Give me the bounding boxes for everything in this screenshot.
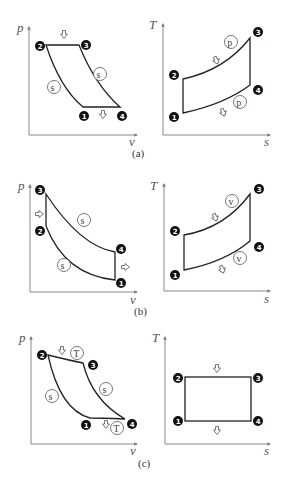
state-point-4: 4: [127, 419, 137, 429]
state-point-3: 3: [81, 40, 91, 50]
state-point-1: 1: [79, 111, 89, 121]
state-point-3: 3: [254, 184, 264, 194]
state-point-2: 2: [35, 226, 45, 236]
state-point-1: 1: [173, 416, 183, 426]
svg-text:v: v: [229, 196, 234, 207]
svg-text:p: p: [227, 37, 232, 48]
caption-c: (c): [138, 457, 151, 470]
svg-text:2: 2: [38, 228, 43, 236]
svg-text:4: 4: [120, 113, 125, 121]
ts-diagram-b: T s v v 3 2 4 1: [150, 178, 270, 306]
process-label-s: s: [58, 259, 71, 272]
process-label-s: s: [78, 214, 91, 227]
process-label-s: s: [46, 390, 59, 403]
svg-text:p: p: [236, 97, 241, 108]
heat-in-icon: [214, 365, 221, 373]
svg-text:3: 3: [257, 186, 262, 194]
y-axis-label: p: [17, 178, 25, 193]
state-point-4: 4: [116, 244, 126, 254]
svg-text:1: 1: [173, 272, 178, 280]
heat-in-icon: [36, 211, 44, 218]
svg-text:4: 4: [256, 87, 261, 95]
state-point-3: 3: [253, 27, 263, 37]
caption-b: (b): [134, 305, 147, 318]
x-axis-label: s: [264, 291, 269, 306]
svg-text:3: 3: [38, 187, 43, 195]
heat-out-icon: [219, 108, 228, 118]
heat-out-icon: [218, 265, 227, 275]
svg-text:1: 1: [119, 280, 124, 288]
heat-out-icon: [214, 427, 221, 435]
state-point-4: 4: [254, 242, 264, 252]
svg-text:s: s: [81, 215, 85, 226]
ts-diagram-c: T s 2 3 1 4: [152, 330, 270, 458]
ts-diagram-a: T s p p 3 2 4 1: [149, 17, 270, 149]
y-axis-label: p: [16, 20, 24, 35]
x-axis-label: v: [130, 443, 136, 458]
y-axis-label: T: [149, 17, 157, 32]
cycle-path: [46, 194, 115, 280]
svg-text:s: s: [51, 82, 55, 93]
cycle-path: [46, 45, 120, 107]
y-axis-label: T: [150, 178, 158, 193]
state-point-2: 2: [35, 41, 45, 51]
cycle-path: [185, 377, 251, 421]
panel-c: p v T s s T 2 3 1 4: [18, 330, 270, 470]
process-label-T: T: [111, 422, 124, 435]
heat-in-icon: [211, 213, 220, 223]
svg-text:2: 2: [173, 228, 178, 236]
cycle-path: [48, 355, 125, 419]
process-label-p: p: [234, 96, 247, 109]
state-point-2: 2: [169, 70, 179, 80]
process-label-T: T: [71, 347, 84, 360]
svg-text:4: 4: [257, 244, 262, 252]
svg-text:2: 2: [40, 352, 45, 360]
x-axis-label: s: [264, 134, 269, 149]
process-label-s: s: [48, 81, 61, 94]
panel-a: p v s s 2 3 1 4 T s: [16, 17, 270, 160]
svg-text:2: 2: [38, 43, 43, 51]
svg-text:2: 2: [172, 72, 177, 80]
svg-text:s: s: [103, 384, 107, 395]
y-axis-label: T: [152, 330, 160, 345]
svg-text:4: 4: [119, 246, 124, 254]
svg-text:1: 1: [84, 422, 89, 430]
state-point-1: 1: [170, 270, 180, 280]
svg-text:3: 3: [91, 362, 96, 370]
svg-text:1: 1: [82, 113, 87, 121]
svg-text:3: 3: [256, 375, 261, 383]
state-point-2: 2: [170, 226, 180, 236]
state-point-2: 2: [173, 373, 183, 383]
state-point-4: 4: [253, 416, 263, 426]
pv-diagram-a: p v s s 2 3 1 4: [16, 20, 137, 149]
process-label-v: v: [226, 195, 239, 208]
process-label-p: p: [225, 36, 238, 49]
svg-text:4: 4: [256, 418, 261, 426]
svg-text:3: 3: [84, 42, 89, 50]
svg-text:1: 1: [172, 114, 177, 122]
pv-diagram-b: p v s s 3 2 4 1: [17, 178, 137, 307]
state-point-1: 1: [81, 420, 91, 430]
state-point-3: 3: [35, 185, 45, 195]
svg-text:T: T: [113, 423, 119, 434]
process-label-s: s: [100, 383, 113, 396]
y-axis-label: p: [18, 330, 26, 345]
svg-text:4: 4: [130, 421, 135, 429]
process-label-s: s: [94, 68, 107, 81]
heat-in-icon: [61, 31, 68, 39]
heat-in-icon: [59, 347, 66, 355]
state-point-4: 4: [117, 111, 127, 121]
heat-out-icon: [122, 264, 130, 271]
pv-diagram-c: p v T s s T 2 3 1 4: [18, 330, 137, 458]
process-label-v: v: [234, 252, 247, 265]
svg-text:s: s: [61, 260, 65, 271]
state-point-1: 1: [169, 112, 179, 122]
svg-text:v: v: [237, 253, 242, 264]
panel-b: p v s s 3 2 4 1 T s: [17, 178, 270, 318]
svg-text:s: s: [49, 391, 53, 402]
state-point-1: 1: [116, 278, 126, 288]
svg-text:3: 3: [256, 29, 261, 37]
state-point-3: 3: [88, 360, 98, 370]
heat-in-icon: [212, 56, 221, 66]
state-point-3: 3: [253, 373, 263, 383]
